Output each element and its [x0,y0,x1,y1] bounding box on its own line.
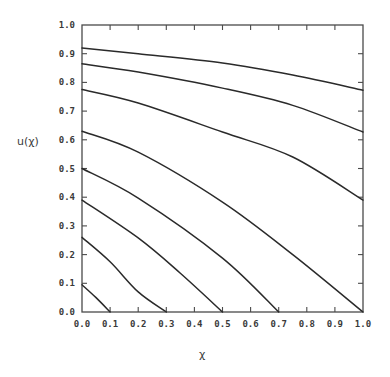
x-tick-label: 0.0 [74,319,90,329]
x-tick-label: 0.4 [186,319,203,329]
x-tick-label: 0.7 [271,319,287,329]
x-tick-label: 0.1 [102,319,118,329]
x-tick-label: 0.2 [130,319,146,329]
data-curve-curve-7 [82,237,166,312]
data-curve-curve-2 [82,64,363,132]
y-tick-label: 0.6 [59,135,75,145]
data-curve-curve-4 [82,131,363,312]
y-tick-label: 0.3 [59,221,75,231]
data-curve-curve-8 [82,285,110,312]
x-tick-label: 0.3 [158,319,174,329]
y-tick-label: 0.0 [59,307,75,317]
y-tick-label: 0.4 [59,192,76,202]
x-tick-label: 0.6 [242,319,258,329]
y-tick-label: 1.0 [59,20,75,30]
y-tick-label: 0.9 [59,49,75,59]
y-tick-label: 0.1 [59,278,75,288]
x-tick-label: 1.0 [355,319,371,329]
plot-frame [82,25,363,312]
y-axis-tick-labels: 0.00.10.20.30.40.50.60.70.80.91.0 [59,20,76,317]
x-tick-label: 0.5 [214,319,230,329]
x-axis-tick-labels: 0.00.10.20.30.40.50.60.70.80.91.0 [74,319,371,329]
y-tick-label: 0.2 [59,250,75,260]
x-tick-label: 0.9 [327,319,343,329]
x-tick-label: 0.8 [299,319,315,329]
y-axis-title: u(χ) [17,135,39,148]
y-tick-label: 0.7 [59,106,75,116]
x-axis-title: χ [199,348,206,361]
data-curve-curve-5 [82,169,279,313]
data-curve-curve-3 [82,90,363,200]
y-tick-label: 0.8 [59,77,75,87]
y-tick-label: 0.5 [59,164,75,174]
curves [82,48,363,312]
chart: 0.00.10.20.30.40.50.60.70.80.91.0 0.00.1… [0,0,390,377]
axis-ticks [82,25,363,312]
